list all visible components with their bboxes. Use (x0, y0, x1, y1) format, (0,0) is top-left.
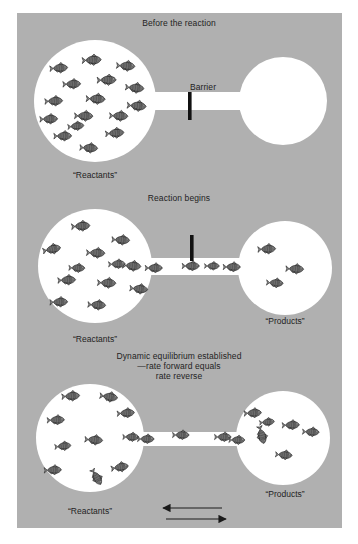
barrier-label-before: Barrier (173, 83, 233, 93)
panel-before (34, 40, 327, 162)
equilibrium-diagram-svg (0, 0, 358, 544)
vessel-apparatus-before (34, 40, 327, 162)
panel-heading-equilibrium-line3: rate reverse (79, 372, 279, 382)
right-vessel-equilibrium (236, 391, 330, 485)
right-vessel-begins (238, 221, 332, 315)
panel-begins (38, 209, 332, 323)
left-vessel-label-begins: “Reactants” (45, 334, 145, 344)
panel-heading-begins: Reaction begins (0, 194, 358, 204)
panel-heading-before: Before the reaction (0, 19, 358, 29)
right-vessel-label-begins: “Products” (235, 316, 335, 326)
right-vessel-label-equilibrium: “Products” (235, 489, 335, 499)
left-vessel-label-equilibrium: “Reactants” (40, 506, 140, 516)
left-vessel-label-before: “Reactants” (45, 170, 145, 180)
panel-equilibrium (36, 384, 330, 492)
double-arrow (163, 508, 226, 519)
figure-root: Before the reaction Barrier “Reactants” … (0, 0, 358, 544)
barrier-before (188, 92, 192, 120)
barrier-begins (190, 235, 194, 261)
right-vessel-before (239, 57, 327, 145)
